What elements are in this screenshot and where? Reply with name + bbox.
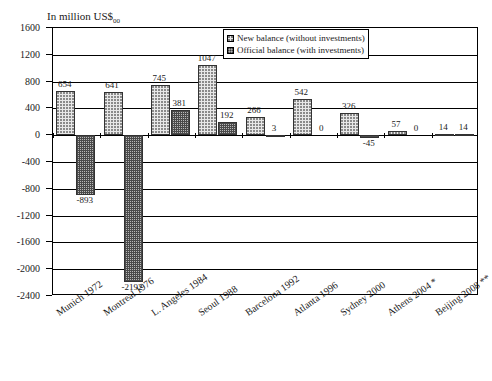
gridline [53,216,477,217]
x-axis-tick-mark [290,133,291,138]
chart-legend: New balance (without investments) Offici… [223,29,369,59]
bar-new-3 [198,65,217,135]
y-axis-tick-label: 800 [2,75,40,86]
bar-value-label: 326 [342,101,356,111]
y-axis-tick-label: -1600 [2,236,40,247]
y-axis-tick-mark [46,27,52,28]
bar-official-0 [76,135,95,195]
bar-new-2 [151,85,170,135]
axis-unit-text: In million US$ [47,10,113,22]
bar-value-label: 641 [105,80,119,90]
bar-value-label: 266 [247,105,261,115]
axis-unit-title: In million US$00 [47,10,120,25]
legend-swatch-new-balance-icon [227,35,234,42]
x-axis-tick-mark [100,133,101,138]
y-axis-tick-label: 400 [2,102,40,113]
bar-official-1 [124,135,143,282]
y-axis-tick-mark [46,215,52,216]
bar-new-7 [388,131,407,135]
bar-value-label: 745 [153,73,167,83]
x-axis-tick-mark [337,133,338,138]
bar-new-0 [56,91,75,135]
y-axis-tick-label: -800 [2,182,40,193]
y-axis-tick-mark [46,295,52,296]
y-axis-tick-label: 1200 [2,48,40,59]
x-axis-tick-mark [148,133,149,138]
y-axis-tick-label: 0 [2,129,40,140]
bar-official-2 [171,110,190,136]
y-axis-tick-mark [46,188,52,189]
bar-official-4 [266,135,285,137]
bar-official-3 [218,122,237,135]
bar-new-8 [435,134,454,136]
plot-area [52,27,478,295]
legend-swatch-official-balance-icon [227,47,234,54]
y-axis-tick-mark [46,134,52,135]
bar-official-8 [455,134,474,136]
y-axis-tick-label: -1200 [2,209,40,220]
x-axis-tick-mark [195,133,196,138]
gridline [53,242,477,243]
bar-value-label: 14 [439,122,448,132]
gridline [53,269,477,270]
bar-new-4 [246,117,265,135]
bar-value-label: 542 [295,87,309,97]
bar-value-label: 381 [173,98,187,108]
x-axis-tick-mark [53,133,54,138]
bar-value-label: 1047 [198,53,216,63]
y-axis-tick-mark [46,268,52,269]
y-axis-tick-label: -2000 [2,263,40,274]
legend-item-official-balance: Official balance (with investments) [227,44,365,56]
legend-item-new-balance: New balance (without investments) [227,32,365,44]
x-axis-tick-mark [384,133,385,138]
y-axis-tick-mark [46,161,52,162]
legend-label-official-balance: Official balance (with investments) [237,44,364,56]
bar-new-5 [293,99,312,135]
axis-unit-subscript: 00 [113,17,120,25]
bar-value-label: 192 [220,110,234,120]
bar-new-6 [340,113,359,135]
bar-chart: In million US$00 160012008004000-400-800… [0,0,492,381]
x-axis-tick-mark [242,133,243,138]
gridline [53,162,477,163]
y-axis-tick-mark [46,107,52,108]
y-axis-tick-label: -400 [2,156,40,167]
x-axis-tick-mark [432,133,433,138]
bar-value-label: -45 [363,138,375,148]
bar-value-label: 0 [319,123,324,133]
bar-value-label: 57 [392,119,401,129]
y-axis-tick-mark [46,54,52,55]
y-axis-tick-label: 1600 [2,22,40,33]
bar-value-label: 14 [459,122,468,132]
y-axis-tick-label: -2400 [2,290,40,301]
y-axis-tick-mark [46,241,52,242]
gridline [53,189,477,190]
bar-value-label: 0 [414,123,419,133]
bar-new-1 [104,92,123,135]
legend-label-new-balance: New balance (without investments) [237,32,365,44]
bar-value-label: 3 [272,123,277,133]
bar-value-label: 654 [58,79,72,89]
bar-value-label: -893 [76,195,93,205]
y-axis-tick-mark [46,81,52,82]
